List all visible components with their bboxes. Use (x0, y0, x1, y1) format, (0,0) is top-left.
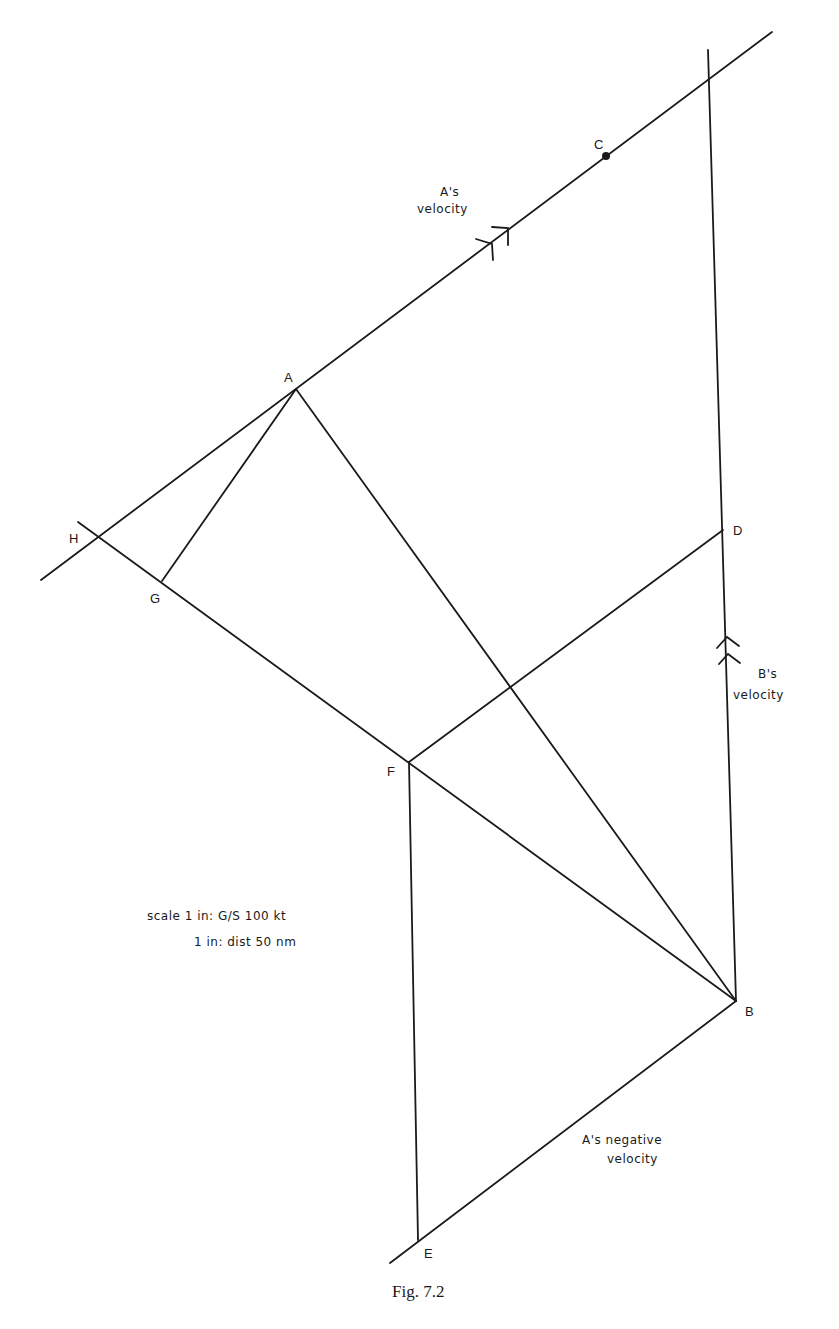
label-d: D (733, 523, 742, 538)
fd-line (409, 530, 723, 762)
scale-line-2: 1 in: dist 50 nm (194, 935, 296, 949)
label-c: C (594, 137, 603, 152)
scale-line-1: scale 1 in: G/S 100 kt (147, 909, 286, 923)
a-negative-velocity-label-2: velocity (607, 1152, 658, 1166)
b-velocity-line (708, 50, 736, 1001)
label-e: E (424, 1246, 433, 1261)
fe-line (409, 762, 418, 1240)
a-negative-velocity-label-1: A's negative (582, 1133, 662, 1147)
b-velocity-label-2: velocity (733, 688, 784, 702)
a-velocity-label-2: velocity (417, 202, 468, 216)
a-negative-velocity-line (390, 1001, 736, 1263)
point-c-dot (602, 152, 610, 160)
label-g: G (150, 591, 160, 606)
double-arrow-icon-a (476, 227, 508, 260)
ag-line (162, 389, 296, 581)
b-velocity-label-1: B's (758, 667, 777, 681)
label-a: A (284, 370, 293, 385)
ab-line (296, 389, 736, 1001)
a-velocity-label-1: A's (440, 185, 459, 199)
label-h: H (69, 531, 78, 546)
double-arrow-icon-b (717, 637, 740, 664)
label-f: F (387, 764, 395, 779)
label-b: B (745, 1004, 754, 1019)
relative-velocity-diagram: C A H G D F B E A's velocity B's velocit… (0, 0, 839, 1329)
figure-caption: Fig. 7.2 (392, 1282, 444, 1301)
a-velocity-line (41, 32, 772, 580)
